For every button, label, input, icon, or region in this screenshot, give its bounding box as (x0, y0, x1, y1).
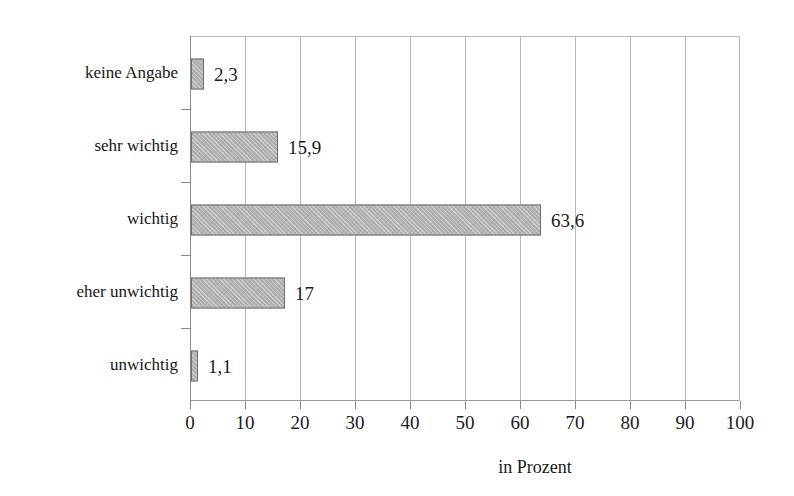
x-axis-tick-40 (410, 401, 411, 409)
category-label-wichtig: wichtig (10, 210, 178, 227)
category-label-sehr-wichtig: sehr wichtig (10, 137, 178, 154)
x-axis-tick-10 (245, 401, 246, 409)
bar-wichtig (191, 204, 541, 235)
x-axis-tick-90 (685, 401, 686, 409)
bar-eher-unwichtig (191, 277, 285, 308)
bar-unwichtig (191, 350, 198, 381)
x-axis-label-70: 70 (545, 413, 605, 432)
bar-value-wichtig: 63,6 (551, 210, 584, 229)
bar-row-eher-unwichtig: 17 (191, 256, 739, 329)
category-label-keine-angabe: keine Angabe (10, 64, 178, 81)
x-axis-tick-70 (575, 401, 576, 409)
x-axis-tick-20 (300, 401, 301, 409)
bar-row-keine-angabe: 2,3 (191, 37, 739, 110)
x-axis-label-10: 10 (215, 413, 275, 432)
y-axis-tick-3 (181, 255, 190, 256)
bar-sehr-wichtig (191, 131, 278, 162)
x-axis-label-20: 20 (270, 413, 330, 432)
bar-row-unwichtig: 1,1 (191, 329, 739, 402)
x-axis-tick-50 (465, 401, 466, 409)
y-axis-tick-2 (181, 182, 190, 183)
category-label-unwichtig: unwichtig (10, 356, 178, 373)
y-axis-tick-1 (181, 109, 190, 110)
x-axis-title: in Prozent (0, 458, 794, 476)
x-axis-label-100: 100 (710, 413, 770, 432)
x-axis-label-30: 30 (325, 413, 385, 432)
bar-keine-angabe (191, 58, 204, 89)
x-axis-label-40: 40 (380, 413, 440, 432)
bar-value-unwichtig: 1,1 (208, 356, 232, 375)
x-axis-tick-80 (630, 401, 631, 409)
bar-value-eher-unwichtig: 17 (295, 283, 314, 302)
y-axis-tick-4 (181, 328, 190, 329)
bar-row-sehr-wichtig: 15,9 (191, 110, 739, 183)
bar-chart-figure: 2,3 15,9 63,6 17 1,1 keine Angabe sehr w… (0, 0, 794, 496)
plot-area: 2,3 15,9 63,6 17 1,1 (190, 36, 740, 401)
x-axis-tick-30 (355, 401, 356, 409)
x-axis-label-80: 80 (600, 413, 660, 432)
bar-row-wichtig: 63,6 (191, 183, 739, 256)
x-axis-label-50: 50 (435, 413, 495, 432)
x-axis-label-60: 60 (490, 413, 550, 432)
category-label-eher-unwichtig: eher unwichtig (10, 283, 178, 300)
x-axis-label-90: 90 (655, 413, 715, 432)
x-axis-tick-100 (740, 401, 741, 409)
x-axis-title-text: in Prozent (498, 458, 572, 476)
x-axis-tick-0 (190, 401, 191, 409)
bar-value-sehr-wichtig: 15,9 (288, 137, 321, 156)
bar-value-keine-angabe: 2,3 (214, 64, 238, 83)
x-axis-label-0: 0 (160, 413, 220, 432)
x-axis-tick-60 (520, 401, 521, 409)
